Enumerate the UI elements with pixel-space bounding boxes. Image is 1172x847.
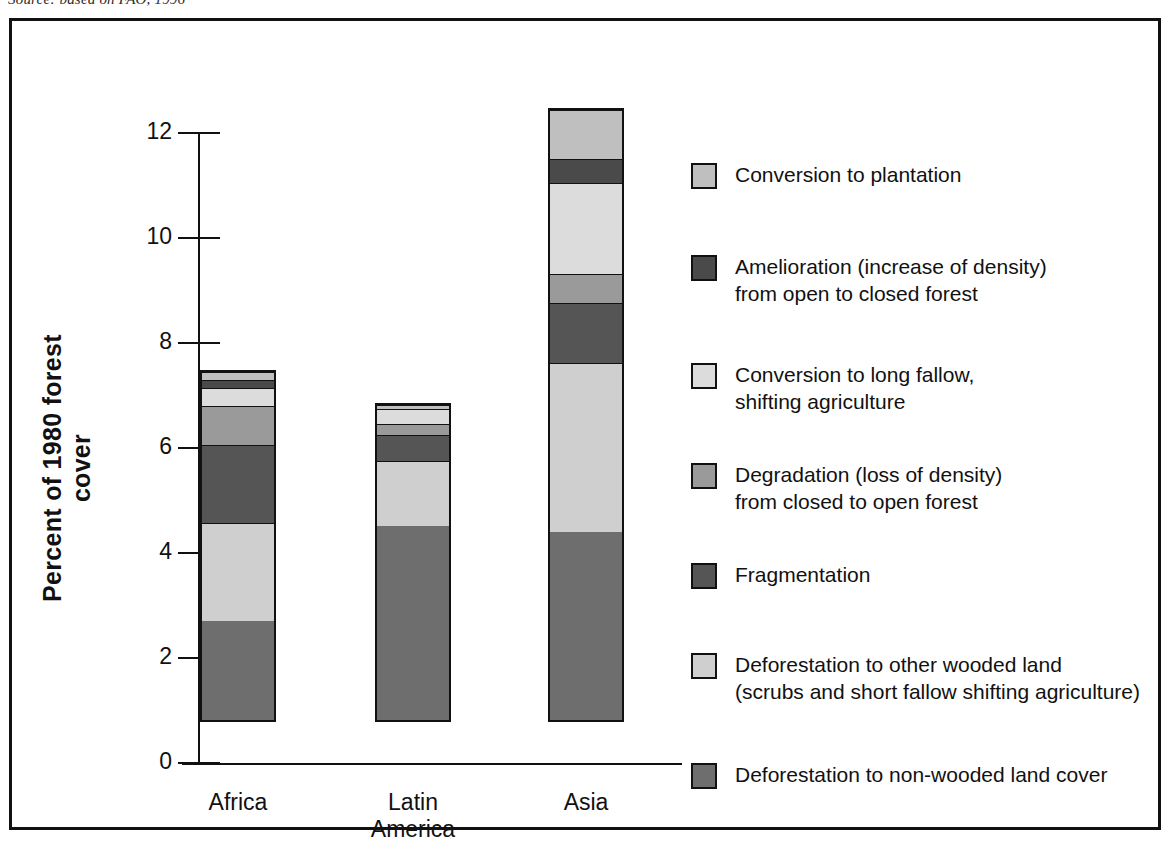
y-axis-tick <box>178 762 220 764</box>
y-axis-tick <box>178 237 220 239</box>
x-axis-category-label: Asia <box>501 789 671 816</box>
legend-swatch-icon <box>691 363 717 389</box>
y-axis-tick-label: 10 <box>128 223 172 250</box>
legend-item[interactable]: Deforestation to non-wooded land cover <box>691 761 1107 789</box>
bar-segment[interactable] <box>202 445 274 523</box>
legend-label: Deforestation to other wooded land (scru… <box>735 651 1140 706</box>
bar-segment[interactable] <box>550 532 622 720</box>
plot-area: Percent of 1980 forest cover 024681012 A… <box>12 21 1158 827</box>
legend-item[interactable]: Conversion to plantation <box>691 161 961 189</box>
y-axis-tick-labels: 024681012 <box>112 21 172 827</box>
legend-label: Amelioration (increase of density) from … <box>735 253 1047 308</box>
bar-segment[interactable] <box>377 435 449 461</box>
legend-item[interactable]: Fragmentation <box>691 561 870 589</box>
y-axis-tick-label: 6 <box>128 433 172 460</box>
y-axis-tick-label: 2 <box>128 643 172 670</box>
legend-item[interactable]: Conversion to long fallow, shifting agri… <box>691 361 974 416</box>
bar-segment[interactable] <box>202 523 274 622</box>
legend-label: Conversion to long fallow, shifting agri… <box>735 361 974 416</box>
source-caption: Source: based on FAO, 1996 <box>8 0 185 8</box>
stacked-bar[interactable] <box>200 370 276 722</box>
legend-swatch-icon <box>691 653 717 679</box>
y-axis-tick-label: 4 <box>128 538 172 565</box>
legend-item[interactable]: Degradation (loss of density) from close… <box>691 461 1002 516</box>
legend-swatch-icon <box>691 463 717 489</box>
legend-label: Conversion to plantation <box>735 161 961 188</box>
stacked-bar[interactable] <box>548 108 624 722</box>
bar-segment[interactable] <box>550 274 622 303</box>
figure-frame: Percent of 1980 forest cover 024681012 A… <box>9 18 1161 830</box>
y-axis-tick <box>178 342 220 344</box>
bar-segment[interactable] <box>202 372 274 380</box>
legend-item[interactable]: Amelioration (increase of density) from … <box>691 253 1047 308</box>
y-axis-tick-label: 8 <box>128 328 172 355</box>
bar-segment[interactable] <box>202 621 274 720</box>
legend-label: Degradation (loss of density) from close… <box>735 461 1002 516</box>
legend-swatch-icon <box>691 255 717 281</box>
bar-segment[interactable] <box>202 380 274 388</box>
bar-segment[interactable] <box>202 406 274 445</box>
legend-swatch-icon <box>691 763 717 789</box>
bar-segment[interactable] <box>377 526 449 720</box>
y-axis-tick-label: 0 <box>128 748 172 775</box>
legend-label: Deforestation to non-wooded land cover <box>735 761 1107 788</box>
legend-item[interactable]: Deforestation to other wooded land (scru… <box>691 651 1140 706</box>
bar-segment[interactable] <box>377 461 449 526</box>
y-axis-tick-label: 12 <box>128 118 172 145</box>
bar-segment[interactable] <box>377 424 449 435</box>
bar-segment[interactable] <box>550 303 622 363</box>
bar-segment[interactable] <box>550 363 622 533</box>
x-axis-category-label: Africa <box>153 789 323 816</box>
bar-segment[interactable] <box>550 110 622 160</box>
legend-swatch-icon <box>691 563 717 589</box>
bar-segment[interactable] <box>202 388 274 406</box>
y-axis-title: Percent of 1980 forest cover <box>38 298 96 638</box>
x-axis-category-label: Latin America <box>328 789 498 843</box>
bar-segment[interactable] <box>550 183 622 274</box>
legend-label: Fragmentation <box>735 561 870 588</box>
stacked-bar[interactable] <box>375 403 451 722</box>
bar-segment[interactable] <box>377 409 449 424</box>
y-axis-tick <box>178 132 220 134</box>
x-axis-line <box>182 763 682 765</box>
bar-segment[interactable] <box>550 159 622 182</box>
legend-swatch-icon <box>691 163 717 189</box>
